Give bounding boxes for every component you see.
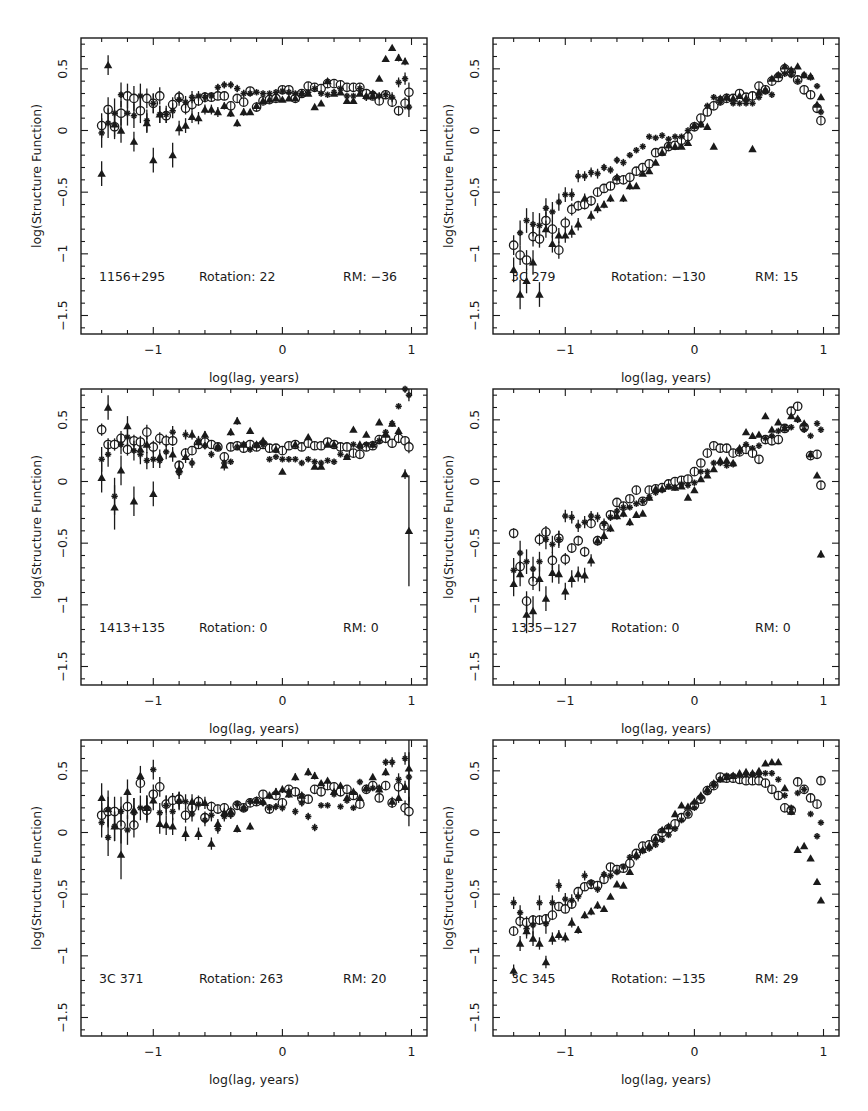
source-name-label: 3C 371: [99, 971, 144, 986]
plot-frame: [81, 38, 427, 334]
y-tick-label: 0.5: [467, 410, 482, 430]
series-circles: [509, 773, 825, 936]
panel-3c279: −101−1.5−1−0.500.5log(lag, years)log(Str…: [412, 0, 846, 370]
series-triangles: [97, 395, 413, 586]
series-triangles: [509, 412, 825, 633]
y-axis-label: log(Structure Function): [441, 806, 456, 950]
y-tick-label: −1: [467, 245, 482, 263]
y-axis-label: log(Structure Function): [29, 455, 44, 599]
y-tick-label: 0: [467, 126, 482, 134]
scatter-plot: −101−1.5−1−0.500.5log(lag, years)log(Str…: [0, 0, 434, 370]
x-axis-label: log(lag, years): [621, 1072, 711, 1087]
panel-3c371: −101−1.5−1−0.500.5log(lag, years)log(Str…: [0, 702, 434, 1072]
y-tick-label: −0.5: [467, 879, 482, 909]
rm-label: RM: 0: [755, 620, 791, 635]
plot-frame: [81, 389, 427, 685]
rm-label: RM: 29: [755, 971, 799, 986]
y-tick-label: −0.5: [55, 879, 70, 909]
y-tick-label: −0.5: [467, 528, 482, 558]
y-tick-label: 0: [467, 828, 482, 836]
source-name-label: 1413+135: [99, 620, 165, 635]
rm-label: RM: 0: [343, 620, 379, 635]
y-axis-label: log(Structure Function): [441, 455, 456, 599]
scatter-plot: −101−1.5−1−0.500.5log(lag, years)log(Str…: [412, 351, 846, 721]
source-name-label: 3C 345: [511, 971, 556, 986]
y-tick-label: −1.5: [467, 1002, 482, 1032]
rm-label: RM: 20: [343, 971, 387, 986]
data-points: [97, 740, 413, 879]
x-tick-label: 1: [820, 1044, 828, 1059]
y-tick-label: −1.5: [55, 300, 70, 330]
rotation-label: Rotation: −135: [611, 971, 706, 986]
y-tick-label: 0: [55, 828, 70, 836]
y-tick-label: −1.5: [55, 651, 70, 681]
x-tick-label: 0: [690, 1044, 698, 1059]
scatter-plot: −101−1.5−1−0.500.5log(lag, years)log(Str…: [0, 702, 434, 1072]
rm-label: RM: 15: [755, 269, 799, 284]
rotation-label: Rotation: 22: [199, 269, 275, 284]
y-tick-label: 0.5: [55, 761, 70, 781]
y-axis-label: log(Structure Function): [441, 104, 456, 248]
panel-1156-295: −101−1.5−1−0.500.5log(lag, years)log(Str…: [0, 0, 434, 370]
data-points: [97, 386, 413, 587]
rotation-label: Rotation: −130: [611, 269, 706, 284]
x-tick-label: −1: [556, 1044, 574, 1059]
y-tick-label: −1: [467, 947, 482, 965]
y-tick-label: −1: [55, 245, 70, 263]
y-tick-label: −1: [55, 596, 70, 614]
y-tick-label: −1: [55, 947, 70, 965]
plot-frame: [493, 38, 839, 334]
panel-1335-127: −101−1.5−1−0.500.5log(lag, years)log(Str…: [412, 351, 846, 721]
data-points: [509, 758, 825, 977]
data-points: [97, 44, 413, 186]
y-tick-label: 0.5: [55, 59, 70, 79]
y-tick-label: 0.5: [467, 59, 482, 79]
panel-3c345: −101−1.5−1−0.500.5log(lag, years)log(Str…: [412, 702, 846, 1072]
y-axis-label: log(Structure Function): [29, 104, 44, 248]
rotation-label: Rotation: 0: [199, 620, 267, 635]
rotation-label: Rotation: 0: [611, 620, 679, 635]
y-tick-label: 0: [55, 126, 70, 134]
y-axis-label: log(Structure Function): [29, 806, 44, 950]
scatter-plot: −101−1.5−1−0.500.5log(lag, years)log(Str…: [412, 702, 846, 1072]
rotation-label: Rotation: 263: [199, 971, 283, 986]
x-tick-label: 0: [278, 1044, 286, 1059]
scatter-plot: −101−1.5−1−0.500.5log(lag, years)log(Str…: [412, 0, 846, 370]
y-tick-label: −0.5: [467, 177, 482, 207]
plot-frame: [493, 740, 839, 1036]
x-tick-label: −1: [144, 1044, 162, 1059]
plot-frame: [493, 389, 839, 685]
y-tick-label: 0: [467, 477, 482, 485]
y-tick-label: 0.5: [55, 410, 70, 430]
data-points: [509, 402, 825, 633]
x-axis-label: log(lag, years): [209, 1072, 299, 1087]
series-triangles: [97, 44, 409, 186]
rm-label: RM: −36: [343, 269, 397, 284]
series-triangles: [97, 740, 413, 879]
y-tick-label: −1.5: [55, 1002, 70, 1032]
y-tick-label: −1.5: [467, 651, 482, 681]
y-tick-label: −0.5: [55, 528, 70, 558]
y-tick-label: −1: [467, 596, 482, 614]
scatter-plot: −101−1.5−1−0.500.5log(lag, years)log(Str…: [0, 351, 434, 721]
source-name-label: 1335−127: [511, 620, 577, 635]
y-tick-label: −0.5: [55, 177, 70, 207]
y-tick-label: 0.5: [467, 761, 482, 781]
series-circles: [97, 79, 413, 139]
panel-1413-135: −101−1.5−1−0.500.5log(lag, years)log(Str…: [0, 351, 434, 721]
y-tick-label: −1.5: [467, 300, 482, 330]
y-tick-label: 0: [55, 477, 70, 485]
series-circles: [509, 65, 825, 270]
source-name-label: 1156+295: [99, 269, 165, 284]
